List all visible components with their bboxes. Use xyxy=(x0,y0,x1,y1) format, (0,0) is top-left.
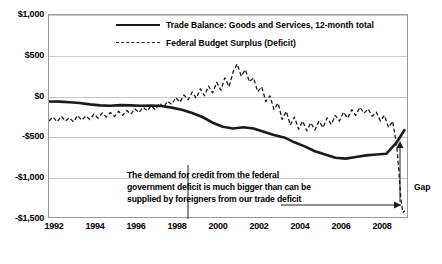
legend-swatch-solid-line xyxy=(116,20,160,30)
annotation-arrow-head xyxy=(394,202,401,209)
ytick-label-neg500: -$500 xyxy=(0,131,44,141)
xtick-label-1996: 1996 xyxy=(116,221,156,231)
ytick-label-1000: $1,000 xyxy=(0,9,44,19)
legend-item-trade-balance: Trade Balance: Goods and Services, 12-mo… xyxy=(116,16,374,34)
annotation-line-3: supplied by foreigners from our trade de… xyxy=(127,193,377,205)
xtick-label-2002: 2002 xyxy=(239,221,279,231)
ytick-label-neg1000: -$1,000 xyxy=(0,172,44,182)
legend-label-federal-budget: Federal Budget Surplus (Deficit) xyxy=(166,34,296,52)
xtick-label-1998: 1998 xyxy=(157,221,197,231)
legend-item-federal-budget: Federal Budget Surplus (Deficit) xyxy=(116,34,374,52)
xtick-label-1994: 1994 xyxy=(75,221,115,231)
chart-legend: Trade Balance: Goods and Services, 12-mo… xyxy=(116,16,374,52)
annotation-line-1: The demand for credit from the federal xyxy=(127,169,377,181)
gap-label: Gap xyxy=(414,182,431,192)
chart-annotation: The demand for credit from the federal g… xyxy=(127,169,377,205)
xtick-label-2006: 2006 xyxy=(321,221,361,231)
chart-container: Billions of $ The demand for credit from… xyxy=(0,0,442,264)
xtick-label-2000: 2000 xyxy=(198,221,238,231)
xtick-label-2008: 2008 xyxy=(362,221,402,231)
xtick-label-2004: 2004 xyxy=(280,221,320,231)
xtick-label-1992: 1992 xyxy=(34,221,74,231)
annotation-line-2: government deficit is much bigger than c… xyxy=(127,181,377,193)
ytick-label-0: $0 xyxy=(0,91,44,101)
ytick-label-500: $500 xyxy=(0,50,44,60)
legend-label-trade-balance: Trade Balance: Goods and Services, 12-mo… xyxy=(166,16,374,34)
legend-swatch-dashed-line xyxy=(116,38,160,48)
